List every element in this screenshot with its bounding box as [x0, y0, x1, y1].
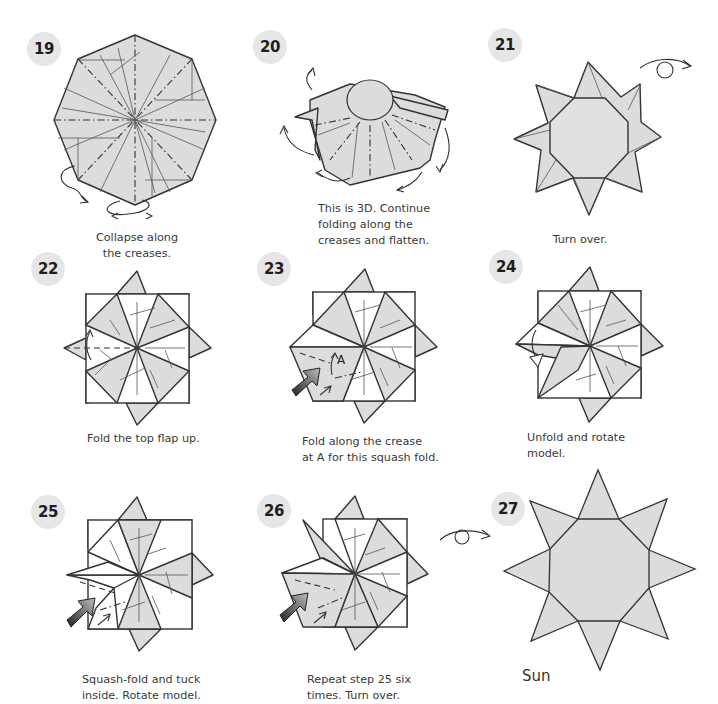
eight-point-star-diagram-icon [478, 0, 718, 240]
pinwheel-diagram-icon [0, 470, 240, 704]
step-caption: Fold along the crease at A for this squa… [302, 434, 472, 466]
model-name-label: Sun [522, 667, 551, 685]
step-caption: Squash-fold and tuck inside. Rotate mode… [82, 672, 232, 704]
finished-sun-star-icon [478, 470, 718, 704]
label-a: A [337, 353, 346, 367]
step-caption: Repeat step 25 six times. Turn over. [307, 672, 447, 704]
pinwheel-diagram-icon [240, 470, 480, 704]
step-caption: Turn over. [540, 232, 620, 248]
step-caption: This is 3D. Continue folding along the c… [318, 201, 448, 249]
octagon-crease-pattern-icon [0, 0, 240, 240]
step-caption: Fold the top flap up. [87, 431, 227, 447]
step-caption: Unfold and rotate model. [527, 430, 667, 462]
